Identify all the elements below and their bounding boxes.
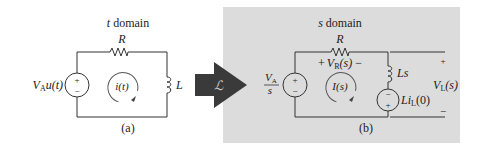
t-domain-title: t domain — [107, 16, 149, 30]
resistor-icon-a — [110, 48, 128, 56]
current-label-b: I(s) — [331, 80, 348, 93]
resistor-label-a: R — [117, 32, 126, 46]
current-label-a: i(t) — [115, 80, 129, 93]
inductor-label-a: L — [175, 78, 183, 92]
ic-source-bottom-sign: + — [385, 100, 390, 110]
source-minus-b: − — [292, 86, 297, 96]
circuit-figure: t domain R L + − VAu(t) i(t) (a) ℒ s dom… — [0, 0, 480, 151]
inductor-label-b: Ls — [396, 66, 409, 80]
current-arrowhead-icon-a — [131, 96, 136, 102]
source-minus-a: − — [74, 86, 79, 96]
inductor-icon-a — [167, 77, 171, 93]
laplace-symbol: ℒ — [214, 78, 224, 93]
output-minus: − — [440, 105, 446, 117]
source-plus-b: + — [292, 75, 297, 85]
ic-source-label: LiL(0) — [400, 93, 430, 108]
ic-source-top-sign: − — [385, 89, 390, 99]
t-domain-circuit: t domain R L + − VAu(t) i(t) (a) — [33, 16, 183, 135]
s-domain-title: s domain — [318, 16, 362, 30]
t-domain-title-text: domain — [110, 16, 149, 30]
output-voltage-label: VL(s) — [433, 78, 458, 93]
source-label-a: VAu(t) — [33, 78, 63, 93]
source-denominator: s — [268, 84, 272, 96]
output-plus: + — [440, 56, 445, 66]
source-plus-a: + — [74, 75, 79, 85]
caption-b: (b) — [359, 121, 373, 135]
vr-label: +VR(s)− — [318, 56, 362, 71]
resistor-label-b: R — [335, 32, 344, 46]
caption-a: (a) — [121, 121, 134, 135]
